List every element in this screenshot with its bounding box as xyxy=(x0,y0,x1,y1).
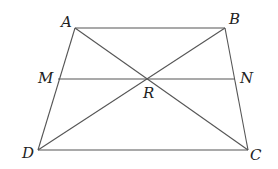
label-R: R xyxy=(143,86,154,101)
label-M: M xyxy=(38,71,53,86)
label-A: A xyxy=(61,15,72,30)
trapezoid-diagram: A B M N R D C xyxy=(0,0,278,169)
label-C: C xyxy=(250,148,261,163)
label-B: B xyxy=(229,12,240,27)
label-N: N xyxy=(240,71,253,86)
diagonal-AC xyxy=(75,28,248,150)
label-D: D xyxy=(22,146,34,161)
diagonal-BD xyxy=(38,28,225,150)
segment-DA xyxy=(38,28,75,150)
segment-BC xyxy=(225,28,248,150)
